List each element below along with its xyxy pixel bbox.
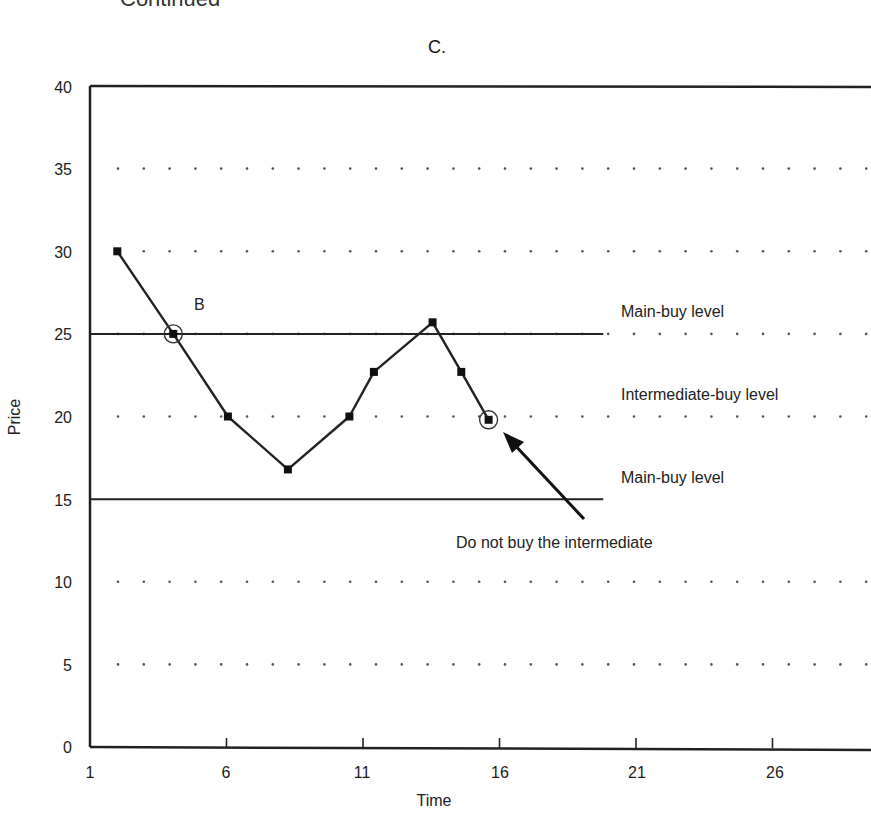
- data-point-marker: [345, 413, 353, 421]
- price-time-chart: 0 5 10 15 20 25 30 35 40 1 6 11 16 21 26…: [0, 0, 871, 822]
- point-b-label: B: [194, 296, 205, 313]
- y-tick-0: 0: [63, 739, 72, 756]
- x-axis-title: Time: [417, 792, 452, 809]
- data-point-marker: [284, 465, 292, 473]
- data-point-marker: [457, 368, 465, 376]
- main-buy-level-lower-label: Main-buy level: [621, 469, 724, 486]
- chart-axes: [90, 86, 871, 750]
- do-not-buy-label: Do not buy the intermediate: [456, 534, 653, 551]
- intermediate-buy-level-label: Intermediate-buy level: [621, 386, 778, 403]
- data-point-marker: [485, 416, 493, 424]
- x-tick-26: 26: [766, 764, 784, 781]
- data-point-marker: [169, 330, 177, 338]
- data-point-marker: [370, 368, 378, 376]
- x-tick-11: 11: [354, 764, 371, 781]
- main-buy-level-upper-label: Main-buy level: [621, 303, 724, 320]
- y-tick-30: 30: [54, 244, 72, 261]
- x-tick-6: 6: [222, 764, 231, 781]
- y-tick-15: 15: [54, 492, 72, 509]
- y-tick-10: 10: [54, 574, 72, 591]
- y-tick-20: 20: [54, 409, 72, 426]
- x-tick-16: 16: [491, 764, 509, 781]
- y-tick-40: 40: [54, 79, 72, 96]
- arrow-icon: [503, 432, 584, 519]
- data-point-marker: [429, 318, 437, 326]
- tick-labels: 0 5 10 15 20 25 30 35 40 1 6 11 16 21 26: [54, 79, 784, 781]
- data-point-marker: [113, 247, 121, 255]
- y-tick-35: 35: [54, 161, 72, 178]
- price-series: [113, 247, 497, 473]
- x-tick-21: 21: [628, 764, 646, 781]
- y-tick-25: 25: [54, 326, 72, 343]
- data-point-marker: [224, 413, 232, 421]
- x-tick-1: 1: [86, 764, 95, 781]
- y-axis-title: Price: [6, 399, 23, 436]
- y-tick-5: 5: [63, 657, 72, 674]
